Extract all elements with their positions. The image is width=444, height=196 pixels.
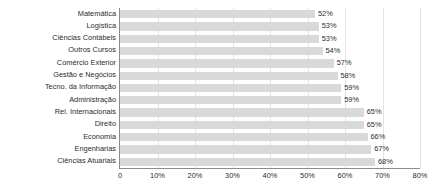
bar-row: 68% xyxy=(120,156,420,168)
bar[interactable] xyxy=(120,96,341,104)
bar-row: 67% xyxy=(120,143,420,155)
category-label: Rel. Internacionais xyxy=(0,108,116,116)
bar[interactable] xyxy=(120,158,375,166)
bar[interactable] xyxy=(120,108,364,116)
x-tick-label: 20% xyxy=(188,171,203,181)
bar-value-label: 59% xyxy=(344,83,359,92)
category-label: Tecno. da Informação xyxy=(0,83,116,91)
category-label: Comércio Exterior xyxy=(0,59,116,67)
x-tick-label: 10% xyxy=(150,171,165,181)
bar[interactable] xyxy=(120,22,319,30)
bar-row: 57% xyxy=(120,57,420,69)
x-tick-label: 50% xyxy=(300,171,315,181)
gridline xyxy=(420,8,421,168)
category-label: Ciências Atuariais xyxy=(0,157,116,165)
x-tick-label: 30% xyxy=(225,171,240,181)
bar-row: 59% xyxy=(120,82,420,94)
x-tick-label: 40% xyxy=(263,171,278,181)
y-axis-line xyxy=(119,8,120,169)
category-label: Outros Cursos xyxy=(0,46,116,54)
x-tick-label: 70% xyxy=(375,171,390,181)
category-axis-labels: MatemáticaLogísticaCiências ContábeisOut… xyxy=(0,8,116,168)
bar-row: 58% xyxy=(120,70,420,82)
x-axis-tick-labels: 010%20%30%40%50%60%70%80% xyxy=(0,171,444,185)
bar-value-label: 65% xyxy=(367,107,382,116)
bar[interactable] xyxy=(120,10,315,18)
bar-value-label: 66% xyxy=(371,132,386,141)
bar[interactable] xyxy=(120,84,341,92)
bar-row: 53% xyxy=(120,33,420,45)
bar[interactable] xyxy=(120,59,334,67)
category-label: Engenharias xyxy=(0,145,116,153)
plot-area: 52%53%53%54%57%58%59%59%65%65%66%67%68% xyxy=(120,8,420,168)
bar-value-label: 52% xyxy=(318,9,333,18)
bar-row: 66% xyxy=(120,131,420,143)
category-label: Direito xyxy=(0,120,116,128)
bar[interactable] xyxy=(120,121,364,129)
bar-value-label: 65% xyxy=(367,120,382,129)
x-axis-line xyxy=(119,168,420,169)
bar-row: 54% xyxy=(120,45,420,57)
category-label: Matemática xyxy=(0,10,116,18)
category-label: Gestão e Negócios xyxy=(0,71,116,79)
bar-value-label: 59% xyxy=(344,95,359,104)
x-tick-label: 0 xyxy=(118,171,122,181)
bar[interactable] xyxy=(120,35,319,43)
category-label: Administração xyxy=(0,96,116,104)
bar-value-label: 67% xyxy=(374,144,389,153)
bar-value-label: 54% xyxy=(326,46,341,55)
bar-row: 52% xyxy=(120,8,420,20)
bar-row: 65% xyxy=(120,106,420,118)
category-label: Logística xyxy=(0,22,116,30)
bar-value-label: 58% xyxy=(341,71,356,80)
category-label: Ciências Contábeis xyxy=(0,34,116,42)
bar[interactable] xyxy=(120,133,368,141)
x-tick-label: 60% xyxy=(338,171,353,181)
bar-value-label: 57% xyxy=(337,58,352,67)
category-label: Economia xyxy=(0,133,116,141)
bar-row: 65% xyxy=(120,119,420,131)
bar-row: 53% xyxy=(120,20,420,32)
bar-value-label: 68% xyxy=(378,157,393,166)
bar-chart: 52%53%53%54%57%58%59%59%65%65%66%67%68% … xyxy=(0,0,444,196)
bar-row: 59% xyxy=(120,94,420,106)
bar[interactable] xyxy=(120,72,338,80)
bar-value-label: 53% xyxy=(322,34,337,43)
bar[interactable] xyxy=(120,145,371,153)
bar[interactable] xyxy=(120,47,323,55)
x-tick-label: 80% xyxy=(413,171,428,181)
bar-value-label: 53% xyxy=(322,21,337,30)
